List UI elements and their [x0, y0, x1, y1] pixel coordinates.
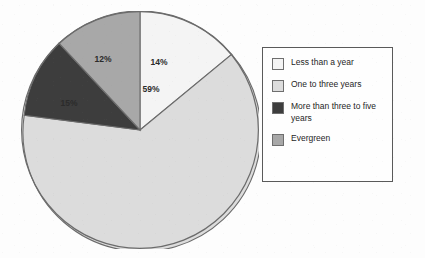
- legend-swatch-one-to-three-years: [272, 80, 284, 92]
- pie-chart-figure: 14% 59% 15% 12% Less than a year One to …: [0, 0, 425, 258]
- legend-swatch-less-than-a-year: [272, 58, 284, 70]
- pie-chart-svg: 14% 59% 15% 12%: [21, 11, 259, 249]
- legend-item-one-to-three-years[interactable]: One to three years: [272, 79, 385, 92]
- slice-label-one-to-three-years: 59%: [142, 84, 159, 94]
- legend-item-evergreen[interactable]: Evergreen: [272, 133, 385, 146]
- legend-label-one-to-three-years: One to three years: [291, 79, 361, 91]
- chart-legend: Less than a year One to three years More…: [262, 47, 393, 182]
- slice-label-more-than-three-to-five-years: 15%: [60, 98, 77, 108]
- legend-swatch-more-than-three-to-five-years: [272, 102, 284, 114]
- legend-item-more-than-three-to-five-years[interactable]: More than three to five years: [272, 101, 385, 124]
- legend-swatch-evergreen: [272, 134, 284, 146]
- slice-label-less-than-a-year: 14%: [150, 57, 167, 67]
- legend-item-less-than-a-year[interactable]: Less than a year: [272, 57, 385, 70]
- legend-label-less-than-a-year: Less than a year: [291, 57, 354, 69]
- slice-label-evergreen: 12%: [94, 54, 111, 64]
- legend-label-evergreen: Evergreen: [291, 133, 330, 145]
- pie-chart: 14% 59% 15% 12%: [21, 11, 259, 249]
- legend-label-more-than-three-to-five-years: More than three to five years: [291, 101, 385, 124]
